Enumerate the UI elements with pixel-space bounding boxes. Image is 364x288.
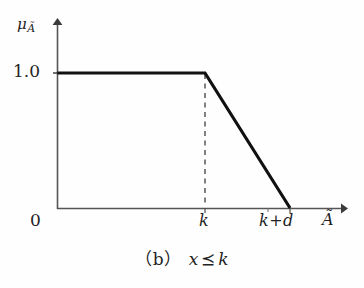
y-axis	[53, 18, 63, 209]
x-tick-kd-base: k	[259, 211, 269, 230]
x-tick-kd-operator: +	[269, 211, 282, 230]
y-axis-title-symbol: μ	[17, 15, 27, 33]
x-tick-kd-offset: d	[283, 211, 293, 230]
plot-area	[0, 0, 364, 288]
figure-caption-lhs: x	[189, 249, 199, 269]
y-axis-arrow-icon	[53, 18, 63, 25]
x-axis-arrow-icon	[341, 203, 348, 213]
figure-caption-tag: （b）	[135, 249, 181, 269]
y-axis-title-subscript: Ã	[27, 22, 35, 35]
figure-container: μÃ 1.0 0 k k+d Ã （b）x⪯k	[0, 0, 364, 288]
y-axis-title: μÃ	[17, 17, 35, 34]
y-tick-label-1.0: 1.0	[13, 63, 40, 80]
x-tick-label-k: k	[199, 213, 209, 229]
precedes-or-equal-icon: ⪯	[201, 249, 215, 269]
x-tick-label-k-plus-d: k+d	[259, 213, 293, 229]
membership-curve	[58, 73, 291, 208]
origin-label: 0	[30, 212, 41, 229]
x-axis-title: Ã	[322, 212, 334, 228]
figure-caption: （b）x⪯k	[0, 251, 364, 268]
figure-caption-rhs: k	[218, 249, 228, 269]
